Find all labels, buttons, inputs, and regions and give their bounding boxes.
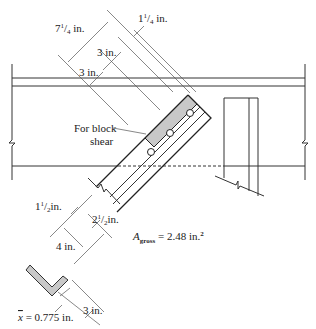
block-shear-leader — [113, 128, 146, 134]
label-2-1-2: 21/2in. — [92, 213, 119, 227]
label-7-1-4: 71/4 in. — [55, 22, 85, 36]
connection-diagram: 71/4 in. 11/4 in. 3 in. 3 in. For block … — [0, 0, 316, 329]
beam-flange — [12, 78, 305, 166]
left-break-edge — [9, 64, 15, 180]
right-break-edge — [302, 64, 308, 180]
bolt-hole — [148, 149, 155, 156]
angle-member — [88, 95, 211, 212]
label-1-1-4: 11/4 in. — [138, 12, 168, 26]
label-xbar: x = 0.775 in. — [17, 311, 74, 323]
bolt-hole — [187, 110, 194, 117]
vertical-stiffener — [215, 98, 264, 196]
label-4-in: 4 in. — [56, 240, 76, 252]
label-shear: shear — [90, 135, 114, 147]
label-3-in-upper: 3 in. — [97, 46, 117, 58]
label-area-gross: Agross = 2.48 in.2 — [132, 230, 204, 245]
label-for-block: For block — [74, 122, 117, 134]
label-1-1-2: 11/2in. — [35, 200, 62, 214]
label-3-in-section: 3 in. — [83, 304, 103, 316]
bolt-hole — [167, 130, 174, 137]
label-3-in-lower: 3 in. — [79, 66, 99, 78]
